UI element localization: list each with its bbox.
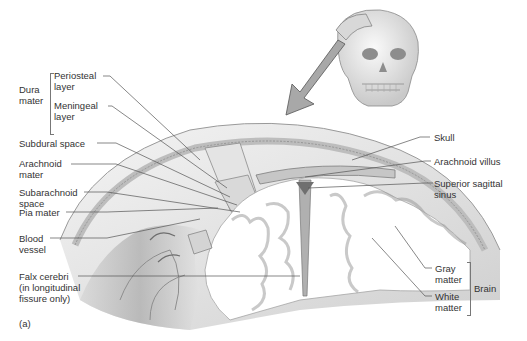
superior-sagittal-line1: Superior sagittal bbox=[434, 178, 503, 189]
label-falx-cerebri: Falx cerebri (in longitudinal fissure on… bbox=[19, 271, 80, 304]
blood-vessel-line1: Blood bbox=[19, 233, 46, 244]
label-gray-matter: Gray matter bbox=[435, 263, 462, 285]
label-skull: Skull bbox=[434, 132, 455, 143]
brain-section bbox=[60, 123, 500, 330]
falx-line1: Falx cerebri bbox=[19, 271, 80, 282]
meningeal-line1: Meningeal bbox=[54, 100, 98, 111]
label-subdural-space: Subdural space bbox=[19, 138, 85, 149]
label-brain: Brain bbox=[474, 283, 496, 294]
label-arachnoid-mater: Arachnoid mater bbox=[19, 158, 62, 180]
skull-icon bbox=[336, 10, 418, 106]
white-line1: White bbox=[435, 291, 462, 302]
periosteal-line2: layer bbox=[54, 81, 96, 92]
superior-sagittal-line2: sinus bbox=[434, 189, 503, 200]
arachnoid-line1: Arachnoid bbox=[19, 158, 62, 169]
dura-line2: mater bbox=[19, 95, 43, 106]
brain-text: Brain bbox=[474, 283, 496, 294]
subdural-line1: Subdural space bbox=[19, 138, 85, 149]
falx-line2: (in longitudinal bbox=[19, 282, 80, 293]
pia-line1: Pia mater bbox=[19, 207, 60, 218]
subarachnoid-line1: Subarachnoid bbox=[19, 187, 78, 198]
arachnoid-line2: mater bbox=[19, 169, 62, 180]
panel-label: (a) bbox=[19, 318, 31, 329]
blood-vessel-line2: vessel bbox=[19, 244, 46, 255]
label-meningeal-layer: Meningeal layer bbox=[54, 100, 98, 122]
skull-line1: Skull bbox=[434, 132, 455, 143]
periosteal-line1: Periosteal bbox=[54, 70, 96, 81]
dura-line1: Dura bbox=[19, 84, 43, 95]
label-arachnoid-villus: Arachnoid villus bbox=[434, 156, 501, 167]
meningeal-line2: layer bbox=[54, 111, 98, 122]
label-periosteal-layer: Periosteal layer bbox=[54, 70, 96, 92]
label-blood-vessel: Blood vessel bbox=[19, 233, 46, 255]
white-line2: matter bbox=[435, 302, 462, 313]
pointer-arrow-icon bbox=[286, 40, 345, 115]
gray-line1: Gray bbox=[435, 263, 462, 274]
label-subarachnoid-space: Subarachnoid space bbox=[19, 187, 78, 209]
label-pia-mater: Pia mater bbox=[19, 207, 60, 218]
label-superior-sagittal-sinus: Superior sagittal sinus bbox=[434, 178, 503, 200]
falx-line3: fissure only) bbox=[19, 293, 80, 304]
panel-label-text: (a) bbox=[19, 318, 31, 329]
label-white-matter: White matter bbox=[435, 291, 462, 313]
label-dura-mater: Dura mater bbox=[19, 84, 43, 106]
gray-line2: matter bbox=[435, 274, 462, 285]
brain-bracket bbox=[467, 262, 471, 316]
arachnoid-villus-line1: Arachnoid villus bbox=[434, 156, 501, 167]
